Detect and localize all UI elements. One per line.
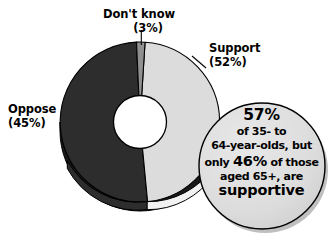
pie-label-oppose-name: Oppose xyxy=(8,103,56,117)
pie-label-support-name: Support xyxy=(209,42,260,56)
bubble-line-4: only 46% of those xyxy=(196,154,327,169)
chart-canvas: Don't know (3%) Support (52%) Oppose (45… xyxy=(0,0,333,240)
donut-hole xyxy=(114,96,167,149)
pie-label-dont-know-name: Don't know xyxy=(84,8,194,22)
bubble-line-4-number: 46% xyxy=(233,153,267,169)
bubble-line-5: aged 65+, are xyxy=(196,171,327,182)
bubble-line-4-pre: only xyxy=(204,156,232,169)
pie-label-dont-know: Don't know (3%) xyxy=(84,8,194,35)
bubble-line-2: of 35- to xyxy=(196,126,327,137)
bubble-line-4-post: of those xyxy=(267,156,319,169)
annotation-bubble-text: 57% of 35- to 64-year-olds, but only 46%… xyxy=(196,108,327,198)
bubble-line-6: supportive xyxy=(196,183,327,198)
bubble-line-3: 64-year-olds, but xyxy=(196,140,327,151)
pie-label-support: Support (52%) xyxy=(209,42,260,69)
pie-label-oppose: Oppose (45%) xyxy=(8,103,56,130)
bubble-line-1: 57% xyxy=(196,108,327,124)
pie-label-oppose-value: (45%) xyxy=(8,117,56,131)
pie-label-support-value: (52%) xyxy=(209,56,260,70)
pie-label-dont-know-value: (3%) xyxy=(84,22,194,36)
